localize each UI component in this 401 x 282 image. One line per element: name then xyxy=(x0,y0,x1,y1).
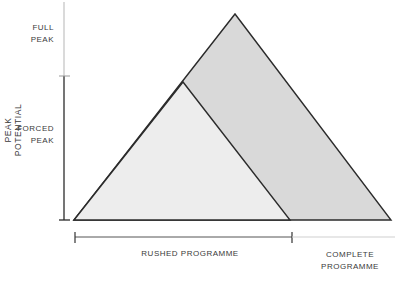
complete-line1: COMPLETE xyxy=(315,249,385,261)
complete-line2: PROGRAMME xyxy=(315,261,385,273)
forced-peak-label: FORCED PEAK xyxy=(10,123,54,147)
rushed-programme-label: RUSHED PROGRAMME xyxy=(120,248,260,260)
full-peak-line2: PEAK xyxy=(14,34,54,46)
forced-peak-line1: FORCED xyxy=(10,123,54,135)
forced-peak-line2: PEAK xyxy=(10,135,54,147)
diagram-canvas xyxy=(0,0,401,282)
full-peak-label: FULL PEAK xyxy=(14,22,54,46)
full-peak-line1: FULL xyxy=(14,22,54,34)
complete-programme-label: COMPLETE PROGRAMME xyxy=(315,249,385,273)
